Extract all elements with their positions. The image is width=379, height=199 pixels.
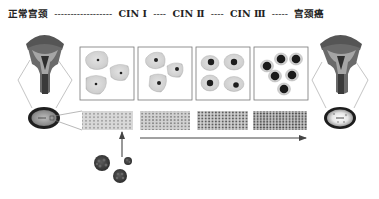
cell-panel-cin2 (196, 47, 250, 100)
cell-panel-normal (80, 47, 134, 100)
cell-panel-cin3 (254, 47, 308, 100)
tissue-strip-cin2 (197, 111, 248, 130)
cancer-cervix-organ (312, 35, 368, 129)
tissue-strip-normal (82, 111, 133, 130)
normal-cervix-organ (18, 35, 82, 130)
tissue-strip-cin3 (253, 111, 307, 130)
hpv-virus-particles (94, 155, 132, 183)
tissue-strip-cin1 (140, 111, 190, 130)
progression-diagram (0, 0, 379, 199)
cell-panel-cin1 (138, 47, 192, 100)
